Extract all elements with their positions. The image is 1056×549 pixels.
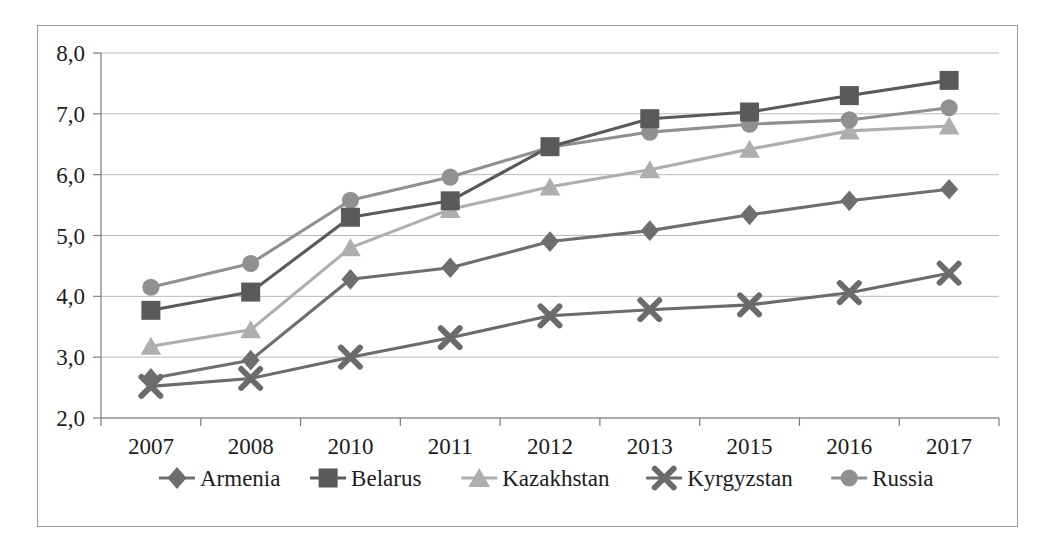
data-point-marker bbox=[840, 86, 859, 105]
data-point-marker bbox=[341, 269, 359, 290]
x-axis-tick-label: 2007 bbox=[128, 434, 174, 459]
legend-label: Kazakhstan bbox=[502, 466, 610, 491]
legend-item-belarus[interactable]: Belarus bbox=[310, 466, 421, 491]
data-point-marker bbox=[940, 71, 959, 90]
data-point-marker bbox=[541, 137, 560, 156]
chart-legend: ArmeniaBelarusKazakhstanKyrgyzstanRussia bbox=[159, 466, 934, 491]
x-axis-tick-label: 2010 bbox=[327, 434, 373, 459]
legend-item-kyrgyzstan[interactable]: Kyrgyzstan bbox=[646, 466, 793, 491]
data-point-marker bbox=[740, 103, 759, 122]
x-axis-tick-label: 2013 bbox=[627, 434, 673, 459]
line-chart-svg: 2,03,04,05,06,07,08,0 200720082010201120… bbox=[38, 26, 1017, 526]
data-point-marker bbox=[841, 111, 858, 128]
chart-figure: 2,03,04,05,06,07,08,0 200720082010201120… bbox=[0, 0, 1056, 549]
y-axis-tick-label: 3,0 bbox=[56, 345, 85, 370]
x-axis-tick-label: 2011 bbox=[428, 434, 473, 459]
y-axis-tick-label: 8,0 bbox=[56, 41, 85, 66]
series-line-kyrgyzstan bbox=[151, 273, 949, 386]
data-point-marker bbox=[319, 469, 338, 488]
data-point-marker bbox=[441, 257, 459, 278]
data-point-marker bbox=[441, 191, 460, 210]
chart-outer-frame: 2,03,04,05,06,07,08,0 200720082010201120… bbox=[37, 25, 1018, 527]
y-axis-tick-label: 2,0 bbox=[56, 406, 85, 431]
data-series-group bbox=[141, 71, 960, 396]
legend-item-armenia[interactable]: Armenia bbox=[159, 466, 280, 491]
legend-item-kazakhstan[interactable]: Kazakhstan bbox=[461, 466, 610, 491]
series-line-armenia bbox=[151, 189, 949, 378]
x-axis-tick-label: 2017 bbox=[926, 434, 972, 459]
x-axis-tick-label: 2012 bbox=[527, 434, 573, 459]
data-point-marker bbox=[840, 190, 858, 211]
data-point-marker bbox=[242, 255, 259, 272]
legend-label: Belarus bbox=[351, 466, 421, 491]
x-axis-tick-label: 2016 bbox=[826, 434, 872, 459]
data-point-marker bbox=[340, 238, 361, 256]
y-axis-tick-label: 4,0 bbox=[56, 284, 85, 309]
data-point-marker bbox=[541, 231, 559, 252]
data-point-marker bbox=[142, 279, 159, 296]
data-point-marker bbox=[342, 192, 359, 209]
data-point-marker bbox=[141, 301, 160, 320]
data-point-marker bbox=[741, 204, 759, 225]
y-axis-tick-label: 6,0 bbox=[56, 163, 85, 188]
data-point-marker bbox=[640, 109, 659, 128]
legend-item-russia[interactable]: Russia bbox=[831, 466, 933, 491]
data-point-marker bbox=[641, 220, 659, 241]
y-axis-tick-label: 5,0 bbox=[56, 224, 85, 249]
legend-label: Russia bbox=[872, 466, 933, 491]
series-russia bbox=[142, 99, 957, 296]
data-point-marker bbox=[941, 99, 958, 116]
x-axis-tick-label: 2015 bbox=[727, 434, 773, 459]
legend-label: Armenia bbox=[200, 466, 280, 491]
data-point-marker bbox=[841, 469, 858, 486]
y-axis-tick-label: 7,0 bbox=[56, 102, 85, 127]
x-axis-tick-labels: 200720082010201120122013201520162017 bbox=[128, 434, 972, 459]
data-point-marker bbox=[242, 350, 260, 371]
data-point-marker bbox=[168, 467, 187, 489]
data-point-marker bbox=[442, 169, 459, 186]
data-point-marker bbox=[940, 179, 958, 200]
y-axis-tick-labels: 2,03,04,05,06,07,08,0 bbox=[56, 41, 85, 431]
data-point-marker bbox=[341, 208, 360, 227]
legend-label: Kyrgyzstan bbox=[687, 466, 793, 491]
x-axis-tick-label: 2008 bbox=[228, 434, 274, 459]
data-point-marker bbox=[241, 283, 260, 302]
